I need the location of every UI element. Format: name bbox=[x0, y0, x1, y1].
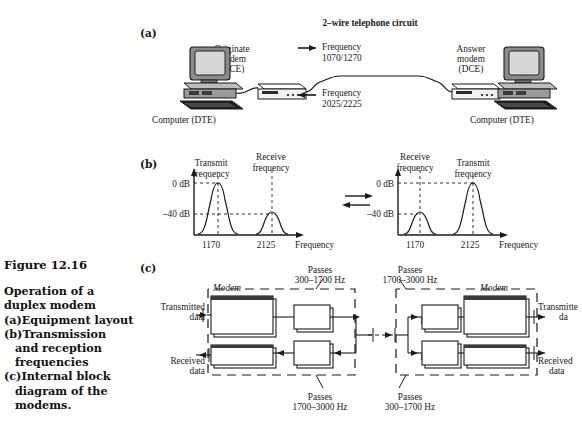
figure-page: Figure 12.16 Operation of a duplex modem… bbox=[0, 0, 582, 435]
transmission-line-middle bbox=[368, 328, 398, 342]
right-filter-top-block bbox=[422, 305, 461, 332]
panel-c-graphics bbox=[0, 0, 582, 435]
right-filter-bottom-block bbox=[422, 341, 461, 368]
right-demodulator-block bbox=[464, 345, 529, 368]
left-modulator-block bbox=[211, 296, 276, 337]
left-demodulator-block bbox=[211, 345, 276, 368]
left-filter-top-block bbox=[294, 305, 333, 332]
left-filter-bottom-block bbox=[294, 341, 333, 368]
right-modulator-block bbox=[464, 296, 529, 337]
passes-leader-lines bbox=[316, 279, 406, 388]
